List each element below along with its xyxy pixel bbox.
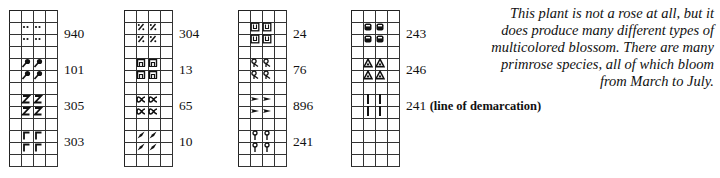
- pin-leaf-icon: [32, 57, 44, 69]
- symbol-code-label: 246: [406, 62, 426, 78]
- dots-icon: [32, 33, 44, 45]
- description-line: does produce many different types of: [474, 22, 714, 39]
- loop-stem-icon: [249, 69, 261, 81]
- symbol-code-label: 241: [293, 134, 313, 150]
- arrowhead-icon: [261, 105, 273, 117]
- vertical-bar-icon: [362, 105, 374, 117]
- pin-leaf-icon: [20, 57, 32, 69]
- u-box-icon: [249, 21, 261, 33]
- arrowhead-icon: [249, 93, 261, 105]
- grid-cell: [387, 154, 400, 167]
- dots-icon: [32, 21, 44, 33]
- triangle-outline-icon: [362, 57, 374, 69]
- wedge-icon: [147, 141, 159, 153]
- filled-rounded-square-icon: [362, 33, 374, 45]
- filled-rounded-square-icon: [374, 33, 386, 45]
- z-icon: [32, 93, 44, 105]
- lollipop-icon: [249, 129, 261, 141]
- alpha-icon: [147, 105, 159, 117]
- lollipop-icon: [261, 141, 273, 153]
- symbol-code-label: 65: [179, 98, 193, 114]
- description-line: multicolored blossom. There are many: [474, 39, 714, 56]
- lollipop-icon: [249, 141, 261, 153]
- percent-icon: [147, 33, 159, 45]
- corner-bracket-icon: [20, 129, 32, 141]
- alpha-icon: [147, 93, 159, 105]
- corner-bracket-icon: [32, 129, 44, 141]
- symbol-code-label: 940: [64, 26, 84, 42]
- symbol-code-label: 896: [293, 98, 313, 114]
- symbol-code-label: 243: [406, 26, 426, 42]
- arrowhead-icon: [261, 93, 273, 105]
- grid-cell: [45, 154, 58, 167]
- u-box-icon: [261, 33, 273, 45]
- z-icon: [32, 105, 44, 117]
- symbol-code-label: 10: [179, 134, 193, 150]
- symbol-code-label: 101: [64, 62, 84, 78]
- pin-leaf-icon: [20, 69, 32, 81]
- arch-box-icon: [147, 57, 159, 69]
- vertical-bar-icon: [374, 105, 386, 117]
- dots-icon: [20, 21, 32, 33]
- arch-box-icon: [135, 57, 147, 69]
- description-line: from March to July.: [474, 73, 714, 90]
- filled-rounded-square-icon: [374, 21, 386, 33]
- symbol-code-label: 76: [293, 62, 307, 78]
- loop-stem-icon: [249, 57, 261, 69]
- description-line: primrose species, all of which bloom: [474, 56, 714, 73]
- alpha-icon: [135, 105, 147, 117]
- vertical-bar-icon: [374, 93, 386, 105]
- symbol-code-label: 303: [64, 134, 84, 150]
- percent-icon: [135, 33, 147, 45]
- description-line: This plant is not a rose at all, but it: [474, 5, 714, 22]
- symbol-code-label: 305: [64, 98, 84, 114]
- arrowhead-icon: [249, 105, 261, 117]
- plant-description: This plant is not a rose at all, but it …: [474, 5, 714, 90]
- symbol-code-label: 24: [293, 26, 307, 42]
- wedge-icon: [135, 129, 147, 141]
- symbol-code-label: 13: [179, 62, 193, 78]
- triangle-outline-icon: [362, 69, 374, 81]
- symbol-code-label: 241 (line of demarcation): [406, 98, 541, 114]
- triangle-outline-icon: [374, 57, 386, 69]
- alpha-icon: [135, 93, 147, 105]
- loop-stem-icon: [261, 57, 273, 69]
- grid-cell: [160, 154, 173, 167]
- grid-cell: [274, 154, 287, 167]
- percent-icon: [147, 21, 159, 33]
- arch-box-icon: [147, 69, 159, 81]
- z-icon: [20, 93, 32, 105]
- wedge-icon: [135, 141, 147, 153]
- filled-rounded-square-icon: [362, 21, 374, 33]
- pin-leaf-icon: [32, 69, 44, 81]
- wedge-icon: [147, 129, 159, 141]
- symbol-code-label: 304: [179, 26, 199, 42]
- lollipop-icon: [261, 129, 273, 141]
- demarcation-note: (line of demarcation): [430, 99, 542, 113]
- corner-bracket-icon: [20, 141, 32, 153]
- vertical-bar-icon: [362, 93, 374, 105]
- u-box-icon: [249, 33, 261, 45]
- triangle-outline-icon: [374, 69, 386, 81]
- dots-icon: [20, 33, 32, 45]
- loop-stem-icon: [261, 69, 273, 81]
- u-box-icon: [261, 21, 273, 33]
- z-icon: [20, 105, 32, 117]
- percent-icon: [135, 21, 147, 33]
- arch-box-icon: [135, 69, 147, 81]
- corner-bracket-icon: [32, 141, 44, 153]
